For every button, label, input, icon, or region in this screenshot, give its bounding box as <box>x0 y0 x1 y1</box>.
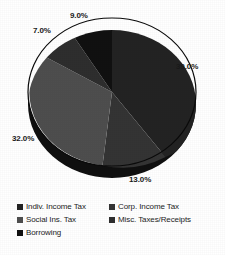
legend-item-misc-taxes-receipts[interactable]: Misc. Taxes/Receipts <box>109 214 191 226</box>
legend-item-borrowing[interactable]: Borrowing <box>17 227 86 239</box>
legend-swatch-icon <box>109 204 115 210</box>
legend-swatch-icon <box>17 204 23 210</box>
legend-item-corp-income-tax[interactable]: Corp. Income Tax <box>109 201 191 213</box>
legend-item-label: Indiv. Income Tax <box>26 202 86 212</box>
pie-slices <box>29 16 213 167</box>
pie-label-misc-taxes-receipts: 7.0% <box>33 26 51 36</box>
legend-column-left: Indiv. Income Tax Social Ins. Tax Borrow… <box>17 201 86 240</box>
pie-label-corp-income-tax: 13.0% <box>129 175 151 185</box>
legend-item-label: Borrowing <box>26 228 61 238</box>
pie-label-social-ins-tax: 32.0% <box>12 134 34 144</box>
legend-item-label: Misc. Taxes/Receipts <box>118 215 191 225</box>
chart-plot-area: 39.0% 13.0% 32.0% 7.0% 9.0% <box>0 0 225 192</box>
legend-item-label: Social Ins. Tax <box>26 215 76 225</box>
legend-swatch-icon <box>17 230 23 236</box>
legend-swatch-icon <box>17 217 23 223</box>
legend-item-indiv-income-tax[interactable]: Indiv. Income Tax <box>17 201 86 213</box>
legend-swatch-icon <box>109 217 115 223</box>
legend-item-label: Corp. Income Tax <box>118 202 179 212</box>
chart-legend: Indiv. Income Tax Social Ins. Tax Borrow… <box>17 201 217 247</box>
pie-chart-figure: 39.0% 13.0% 32.0% 7.0% 9.0% Indiv. Incom… <box>0 0 225 255</box>
pie-label-indiv-income-tax: 39.0% <box>176 62 198 72</box>
legend-column-right: Corp. Income Tax Misc. Taxes/Receipts <box>109 201 191 227</box>
pie-label-borrowing: 9.0% <box>70 11 88 21</box>
legend-item-social-ins-tax[interactable]: Social Ins. Tax <box>17 214 86 226</box>
